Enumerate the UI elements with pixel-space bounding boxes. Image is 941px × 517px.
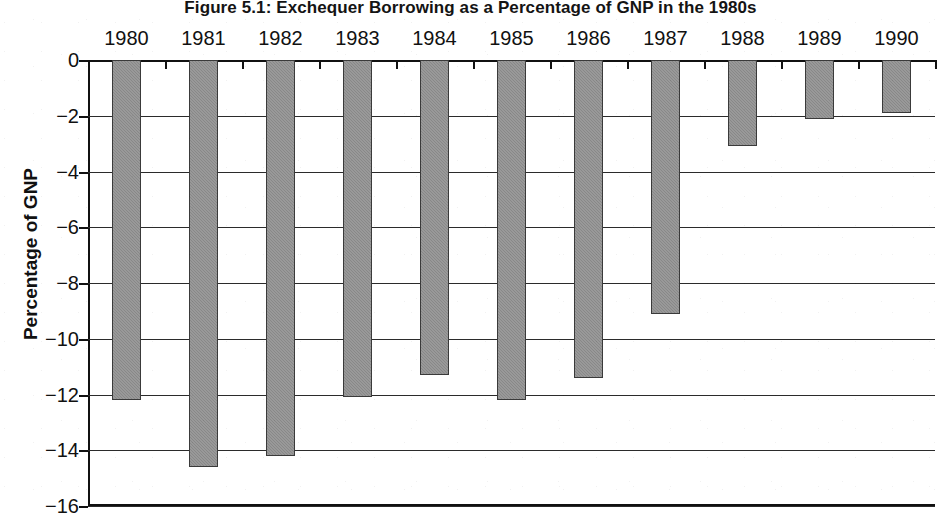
plot-area: 0−2−4−6−8−10−12−14−16 198019811982198319… — [88, 60, 935, 506]
y-tick--6 — [79, 227, 88, 229]
x-tick-1 — [165, 60, 167, 69]
bar-1987 — [651, 60, 679, 314]
x-tick-5 — [473, 60, 475, 69]
y-tick-label--2: −2 — [9, 104, 79, 127]
y-tick--8 — [79, 283, 88, 285]
y-tick--16 — [79, 506, 88, 508]
x-tick-10 — [858, 60, 860, 69]
x-tick-4 — [396, 60, 398, 69]
bar-1986 — [574, 60, 602, 378]
y-tick--10 — [79, 339, 88, 341]
bar-1988 — [728, 60, 756, 146]
x-tick-9 — [781, 60, 783, 69]
bar-1989 — [805, 60, 833, 119]
x-tick-label-1990: 1990 — [852, 27, 941, 50]
bar-1985 — [497, 60, 525, 400]
bar-1984 — [420, 60, 448, 375]
y-tick--12 — [79, 395, 88, 397]
y-tick--4 — [79, 172, 88, 174]
x-tick-8 — [704, 60, 706, 69]
y-tick-label--8: −8 — [9, 272, 79, 295]
y-tick--14 — [79, 450, 88, 452]
x-tick-7 — [627, 60, 629, 69]
y-tick-label-0: 0 — [9, 49, 79, 72]
bar-1980 — [112, 60, 140, 400]
y-tick-label--10: −10 — [9, 327, 79, 350]
bar-1981 — [189, 60, 217, 467]
chart-title: Figure 5.1: Exchequer Borrowing as a Per… — [0, 0, 941, 18]
y-tick-label--16: −16 — [9, 495, 79, 517]
y-tick-label--14: −14 — [9, 439, 79, 462]
y-tick-0 — [79, 60, 88, 62]
bar-1990 — [882, 60, 910, 113]
bar-1983 — [343, 60, 371, 397]
bar-1982 — [266, 60, 294, 456]
gridline--16 — [88, 506, 935, 507]
y-tick-label--6: −6 — [9, 216, 79, 239]
y-tick-label--12: −12 — [9, 383, 79, 406]
x-tick-2 — [242, 60, 244, 69]
x-tick-6 — [550, 60, 552, 69]
y-tick-label--4: −4 — [9, 160, 79, 183]
x-tick-3 — [319, 60, 321, 69]
y-tick--2 — [79, 116, 88, 118]
x-tick-11 — [935, 60, 937, 69]
x-tick-0 — [88, 60, 90, 69]
